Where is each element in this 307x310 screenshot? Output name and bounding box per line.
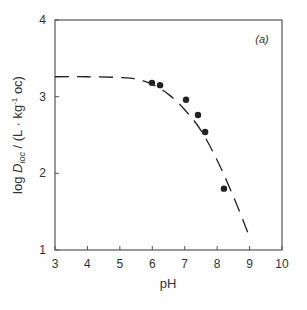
data-point — [202, 129, 208, 135]
chart: 3456789101234 (a) pH log Dioc / (L · kg-… — [0, 0, 307, 310]
y-tick-label: 2 — [39, 166, 46, 180]
data-point — [221, 185, 227, 191]
y-tick-label: 4 — [39, 13, 46, 27]
panel-label: (a) — [255, 33, 269, 45]
x-tick-label: 8 — [214, 257, 221, 271]
model-curve — [55, 77, 250, 237]
x-tick-label: 6 — [149, 257, 156, 271]
y-axis-label: log Dioc / (L · kg-1 oc) — [10, 76, 27, 194]
y-tick-label: 1 — [39, 243, 46, 257]
axis-ticks: 3456789101234 — [39, 13, 289, 271]
data-point — [195, 112, 201, 118]
x-tick-label: 7 — [181, 257, 188, 271]
x-tick-label: 3 — [52, 257, 59, 271]
x-axis-label: pH — [160, 276, 177, 291]
data-point — [149, 80, 155, 86]
y-tick-label: 3 — [39, 90, 46, 104]
data-points — [149, 80, 227, 192]
x-tick-label: 9 — [246, 257, 253, 271]
plot-border — [55, 20, 282, 250]
x-tick-label: 10 — [275, 257, 289, 271]
data-point — [183, 97, 189, 103]
plot-frame — [55, 20, 282, 250]
dashed-model-line — [55, 77, 250, 237]
x-tick-label: 4 — [84, 257, 91, 271]
data-point — [157, 82, 163, 88]
x-tick-label: 5 — [117, 257, 124, 271]
